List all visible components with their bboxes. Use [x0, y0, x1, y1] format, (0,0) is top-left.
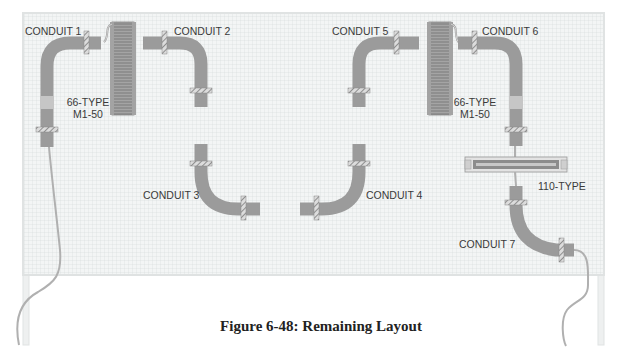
66-block-left-type: 66-TYPE	[66, 96, 110, 108]
conduit-2-label: CONDUIT 2	[174, 25, 230, 37]
conduit-clamp	[559, 238, 564, 262]
conduit-clamp	[162, 31, 167, 54]
conduit-clamp	[241, 196, 246, 220]
66-block-right-type: 66-TYPE	[453, 96, 497, 108]
conduit-clamp	[84, 31, 89, 54]
conduit-7-label: CONDUIT 7	[459, 238, 515, 250]
cable-segment	[515, 172, 516, 186]
conduit-1-label: CONDUIT 1	[25, 25, 81, 37]
conduit-clamp	[472, 31, 477, 54]
conduit-3-label: CONDUIT 3	[143, 189, 199, 201]
conduit-6-label: CONDUIT 6	[482, 25, 538, 37]
conduit-clamp	[348, 88, 370, 93]
66-block-right-model: M1-50	[453, 108, 497, 120]
conduit-clamp	[190, 88, 212, 93]
66-block-left-model: M1-50	[66, 108, 110, 120]
110-block-label: 110-TYPE	[538, 180, 586, 192]
conduit-5-label: CONDUIT 5	[332, 25, 388, 37]
conduit-4-label: CONDUIT 4	[366, 189, 422, 201]
66-block-left-label: 66-TYPE M1-50	[66, 96, 110, 120]
66-block-right-label: 66-TYPE M1-50	[453, 96, 497, 120]
wiring-layout-diagram: CONDUIT 1 CONDUIT 2 CONDUIT 3 CONDUIT 4 …	[0, 0, 642, 364]
conduit-clamp	[505, 127, 527, 132]
conduit-clamp	[348, 161, 370, 166]
conduit-clamp	[314, 196, 319, 220]
conduit-clamp	[190, 161, 212, 166]
conduit-clamp	[505, 200, 527, 205]
conduit-clamp	[36, 127, 58, 132]
110-block	[465, 157, 567, 172]
conduit-clamp	[394, 31, 399, 54]
figure-caption: Figure 6-48: Remaining Layout	[0, 318, 642, 335]
